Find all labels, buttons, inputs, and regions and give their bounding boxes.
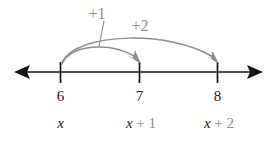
number-line-diagram: +1 +2 6 7 8 x x + 1 x + 2 xyxy=(0,0,277,142)
tick-label-8: 8 xyxy=(214,88,222,104)
jump-label-plus-2: +2 xyxy=(131,17,148,34)
expression-variable-0: x xyxy=(56,115,64,131)
leader-line-plus-1 xyxy=(99,21,104,46)
expression-rest-2: + 2 xyxy=(211,115,234,131)
expression-label-x-plus-2: x + 2 xyxy=(203,115,234,131)
tick-label-7: 7 xyxy=(136,88,144,104)
number-line-figure: +1 +2 6 7 8 x x + 1 x + 2 xyxy=(0,0,277,142)
jump-arc-plus-2 xyxy=(62,38,219,64)
axis-group xyxy=(14,65,263,79)
jump-label-plus-1: +1 xyxy=(88,5,105,22)
jump-arrowhead-plus-1 xyxy=(127,50,141,64)
jump-arc-path-plus-1 xyxy=(62,47,134,64)
tick-label-6: 6 xyxy=(57,88,65,104)
expression-label-x: x xyxy=(56,115,64,131)
expression-label-x-plus-1: x + 1 xyxy=(125,115,156,131)
expression-rest-1: + 1 xyxy=(133,115,156,131)
